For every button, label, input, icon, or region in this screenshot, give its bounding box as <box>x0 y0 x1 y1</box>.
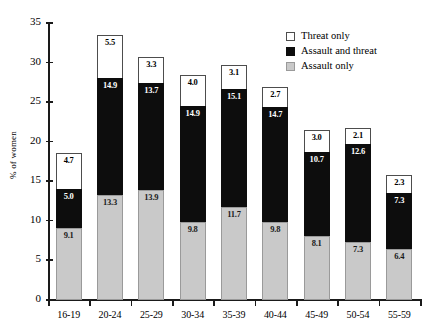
y-axis-tick <box>46 22 53 24</box>
bar-segment-assault-and-threat: 14.7 <box>262 107 288 223</box>
y-axis-tick <box>46 62 53 64</box>
bar-20-24[interactable]: 5.514.913.3 <box>97 35 123 299</box>
bar-segment-assault-and-threat: 13.7 <box>138 83 164 191</box>
y-axis-tick-label: 20 <box>1 135 41 146</box>
bar-segment-value: 7.3 <box>387 196 411 205</box>
white-square-icon <box>286 32 295 41</box>
bar-segment-value: 9.8 <box>181 225 205 234</box>
bar-segment-threat-only: 2.1 <box>345 128 371 145</box>
bar-segment-value: 14.9 <box>181 109 205 118</box>
bar-segment-value: 13.3 <box>98 198 122 207</box>
y-axis-tick-label: 25 <box>1 95 41 106</box>
x-axis-tick <box>255 299 257 306</box>
bar-segment-value: 5.5 <box>98 38 122 47</box>
y-axis-tick <box>46 220 53 222</box>
bar-segment-value: 7.3 <box>346 245 370 254</box>
y-axis-tick-label: 5 <box>1 253 41 264</box>
bar-50-54[interactable]: 2.112.67.3 <box>345 128 371 299</box>
bar-segment-assault-and-threat: 14.9 <box>180 106 206 224</box>
bar-segment-threat-only: 3.1 <box>221 65 247 90</box>
x-axis-tick <box>296 299 298 306</box>
bar-segment-assault-and-threat: 7.3 <box>386 193 412 251</box>
bar-segment-value: 3.1 <box>222 68 246 77</box>
bar-segment-value: 10.7 <box>305 155 329 164</box>
bar-segment-value: 4.7 <box>57 156 81 165</box>
bar-segment-value: 9.8 <box>263 225 287 234</box>
black-square-icon <box>286 47 295 56</box>
bar-segment-value: 13.9 <box>139 193 163 202</box>
y-axis-tick <box>46 259 53 261</box>
y-axis-tick <box>46 141 53 143</box>
bar-segment-value: 8.1 <box>305 239 329 248</box>
bar-segment-value: 15.1 <box>222 92 246 101</box>
bar-segment-threat-only: 4.7 <box>56 153 82 190</box>
x-axis-tick <box>420 299 422 306</box>
bar-45-49[interactable]: 3.010.78.1 <box>304 130 330 300</box>
bar-segment-assault-only: 9.1 <box>56 228 82 300</box>
bar-16-19[interactable]: 4.75.09.1 <box>56 153 82 299</box>
bar-segment-value: 14.9 <box>98 81 122 90</box>
bar-segment-threat-only: 3.0 <box>304 130 330 154</box>
bar-segment-assault-only: 7.3 <box>345 242 371 300</box>
bar-segment-value: 2.7 <box>263 90 287 99</box>
bar-40-44[interactable]: 2.714.79.8 <box>262 87 288 299</box>
bar-segment-assault-and-threat: 5.0 <box>56 189 82 229</box>
bar-segment-value: 2.3 <box>387 178 411 187</box>
bar-segment-value: 3.0 <box>305 133 329 142</box>
bar-segment-assault-only: 8.1 <box>304 236 330 300</box>
x-axis-tick <box>213 299 215 306</box>
bar-segment-assault-and-threat: 14.9 <box>97 78 123 196</box>
y-axis-line <box>48 22 50 299</box>
bar-segment-assault-only: 6.4 <box>386 249 412 300</box>
bar-segment-value: 11.7 <box>222 210 246 219</box>
bar-35-39[interactable]: 3.115.111.7 <box>221 65 247 299</box>
bar-30-34[interactable]: 4.014.99.8 <box>180 75 206 299</box>
y-axis-tick-label: 35 <box>1 16 41 27</box>
x-axis-tick <box>89 299 91 306</box>
y-axis-tick <box>46 180 53 182</box>
bar-segment-threat-only: 2.3 <box>386 175 412 193</box>
bar-segment-value: 9.1 <box>57 231 81 240</box>
x-axis-tick <box>379 299 381 306</box>
bar-segment-assault-only: 13.3 <box>97 195 123 300</box>
bar-segment-threat-only: 4.0 <box>180 75 206 107</box>
bar-55-59[interactable]: 2.37.36.4 <box>386 175 412 299</box>
bar-segment-threat-only: 2.7 <box>262 87 288 108</box>
legend-label-threat-only: Threat only <box>301 31 350 42</box>
stacked-bar-chart: % of women 05101520253035 16-1920-2425-2… <box>0 0 434 332</box>
x-axis-tick <box>172 299 174 306</box>
bar-segment-threat-only: 5.5 <box>97 35 123 79</box>
bar-segment-assault-only: 9.8 <box>180 222 206 300</box>
bar-segment-value: 13.7 <box>139 86 163 95</box>
y-axis-tick-label: 10 <box>1 214 41 225</box>
y-axis-tick-label: 0 <box>1 293 41 304</box>
y-axis-tick-label: 30 <box>1 56 41 67</box>
bar-segment-value: 6.4 <box>387 252 411 261</box>
bar-segment-assault-and-threat: 10.7 <box>304 152 330 237</box>
legend-label-assault-and-threat: Assault and threat <box>301 46 377 57</box>
bar-segment-assault-and-threat: 15.1 <box>221 89 247 209</box>
y-axis-tick <box>46 101 53 103</box>
bar-segment-value: 5.0 <box>57 192 81 201</box>
bar-segment-value: 2.1 <box>346 131 370 140</box>
bar-segment-value: 3.3 <box>139 60 163 69</box>
bar-segment-value: 12.6 <box>346 147 370 156</box>
x-axis-tick <box>337 299 339 306</box>
y-axis-label: % of women <box>8 110 18 200</box>
bar-segment-assault-only: 13.9 <box>138 190 164 300</box>
x-axis-label-55-59: 55-59 <box>369 310 429 320</box>
chart-legend: Threat only Assault and threat Assault o… <box>286 30 426 75</box>
y-axis-tick-label: 15 <box>1 174 41 185</box>
x-axis-tick <box>48 299 50 306</box>
legend-item-assault-and-threat: Assault and threat <box>286 45 426 58</box>
legend-item-assault-only: Assault only <box>286 60 426 73</box>
bar-segment-value: 4.0 <box>181 78 205 87</box>
legend-label-assault-only: Assault only <box>301 61 354 72</box>
bar-segment-assault-only: 11.7 <box>221 207 247 300</box>
bar-segment-value: 14.7 <box>263 110 287 119</box>
x-axis-tick <box>131 299 133 306</box>
bar-25-29[interactable]: 3.313.713.9 <box>138 57 164 299</box>
gray-square-icon <box>286 62 295 71</box>
bar-segment-threat-only: 3.3 <box>138 57 164 83</box>
legend-item-threat-only: Threat only <box>286 30 426 43</box>
